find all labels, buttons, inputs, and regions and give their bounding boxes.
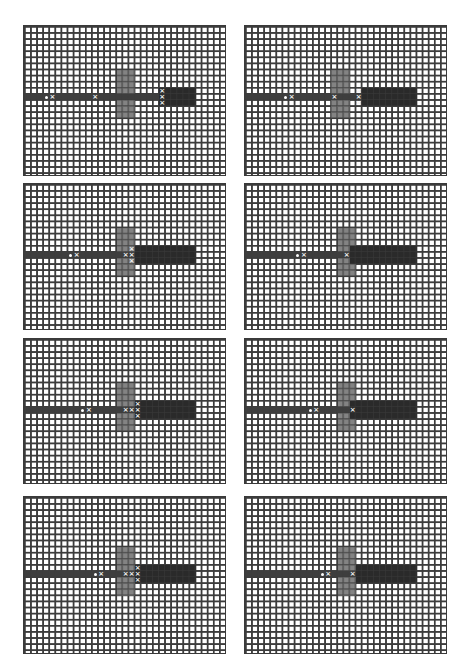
x-marker-icon: × — [49, 94, 55, 100]
x-marker-icon: × — [98, 571, 104, 577]
path-band — [246, 571, 362, 577]
start-dot-icon — [45, 96, 48, 99]
grid-panel-3: ××××× — [23, 183, 226, 330]
x-marker-icon: × — [331, 94, 337, 100]
x-marker-icon: × — [92, 94, 98, 100]
start-dot-icon — [284, 96, 287, 99]
x-marker-icon: × — [301, 252, 307, 258]
grid-panel-1: ××××× — [23, 25, 226, 176]
x-marker-icon: × — [344, 252, 350, 258]
grid-panel-6: ×× — [244, 338, 447, 484]
x-marker-icon: × — [159, 100, 165, 106]
x-marker-icon: × — [74, 252, 80, 258]
x-marker-icon: × — [129, 571, 135, 577]
grid-panel-5: ×××××× — [23, 338, 226, 484]
grid-panel-7: ×××××× — [23, 496, 226, 654]
path-band — [246, 407, 356, 413]
target-block — [350, 246, 417, 264]
x-marker-icon: × — [129, 407, 135, 413]
grid-panel-4: ×× — [244, 183, 447, 330]
start-dot-icon — [309, 409, 312, 412]
x-marker-icon: × — [350, 407, 356, 413]
target-block — [135, 565, 196, 583]
start-dot-icon — [69, 254, 72, 257]
grid-panel-8: ×× — [244, 496, 447, 654]
x-marker-icon: × — [135, 577, 141, 583]
start-dot-icon — [94, 573, 97, 576]
start-dot-icon — [296, 254, 299, 257]
x-marker-icon: × — [289, 94, 295, 100]
x-marker-icon: × — [350, 571, 356, 577]
target-block — [135, 246, 196, 264]
x-marker-icon: × — [123, 407, 129, 413]
target-block — [362, 88, 417, 106]
start-dot-icon — [321, 573, 324, 576]
x-marker-icon: × — [325, 571, 331, 577]
target-block — [356, 565, 417, 583]
path-band — [246, 94, 368, 100]
x-marker-icon: × — [356, 100, 362, 106]
target-block — [135, 401, 196, 419]
x-marker-icon: × — [129, 258, 135, 264]
x-marker-icon: × — [123, 252, 129, 258]
x-marker-icon: × — [313, 407, 319, 413]
x-marker-icon: × — [135, 413, 141, 419]
target-block — [350, 401, 417, 419]
x-marker-icon: × — [123, 571, 129, 577]
grid-panel-2: ××××× — [244, 25, 447, 176]
x-marker-icon: × — [86, 407, 92, 413]
